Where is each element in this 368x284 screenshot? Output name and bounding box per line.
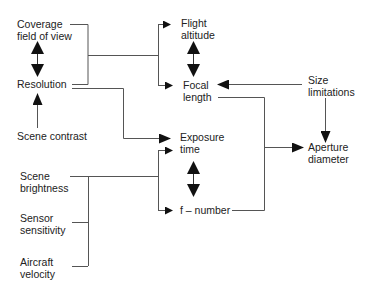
node-focal-length: Focal length [183, 79, 212, 103]
node-label: Size [308, 74, 355, 86]
node-label: altitude [181, 29, 215, 41]
node-aperture-diameter: Aperture diameter [308, 141, 349, 165]
node-coverage-field-of-view: Coverage field of view [17, 18, 72, 42]
node-resolution: Resolution [17, 78, 67, 90]
node-label: Resolution [17, 78, 67, 90]
node-sensor-sensitivity: Sensor sensitivity [20, 212, 66, 236]
node-label: Exposure [180, 131, 224, 143]
node-label: time [180, 143, 224, 155]
node-label: f – number [180, 204, 230, 216]
node-label: brightness [20, 182, 68, 194]
node-label: Sensor [20, 212, 66, 224]
node-exposure-time: Exposure time [180, 131, 224, 155]
node-size-limitations: Size limitations [308, 74, 355, 98]
node-label: Flight [181, 17, 215, 29]
node-scene-contrast: Scene contrast [17, 130, 87, 142]
node-flight-altitude: Flight altitude [181, 17, 215, 41]
node-label: length [183, 91, 212, 103]
node-label: Scene contrast [17, 130, 87, 142]
node-label: Aperture [308, 141, 349, 153]
node-label: Scene [20, 170, 68, 182]
double-arrow-coverage-resolution [31, 41, 44, 77]
node-f-number: f – number [180, 204, 230, 216]
node-label: velocity [20, 268, 55, 280]
coverage-resolution-bracket [70, 25, 88, 85]
double-arrow-altitude-focal [187, 41, 200, 77]
node-label: diameter [308, 153, 349, 165]
double-arrow-exposure-fnumber [187, 161, 200, 197]
node-label: Coverage [17, 18, 72, 30]
node-label: field of view [17, 30, 72, 42]
node-label: sensitivity [20, 224, 66, 236]
node-label: limitations [308, 86, 355, 98]
node-aircraft-velocity: Aircraft velocity [20, 256, 55, 280]
node-scene-brightness: Scene brightness [20, 170, 68, 194]
node-label: Focal [183, 79, 212, 91]
node-label: Aircraft [20, 256, 55, 268]
